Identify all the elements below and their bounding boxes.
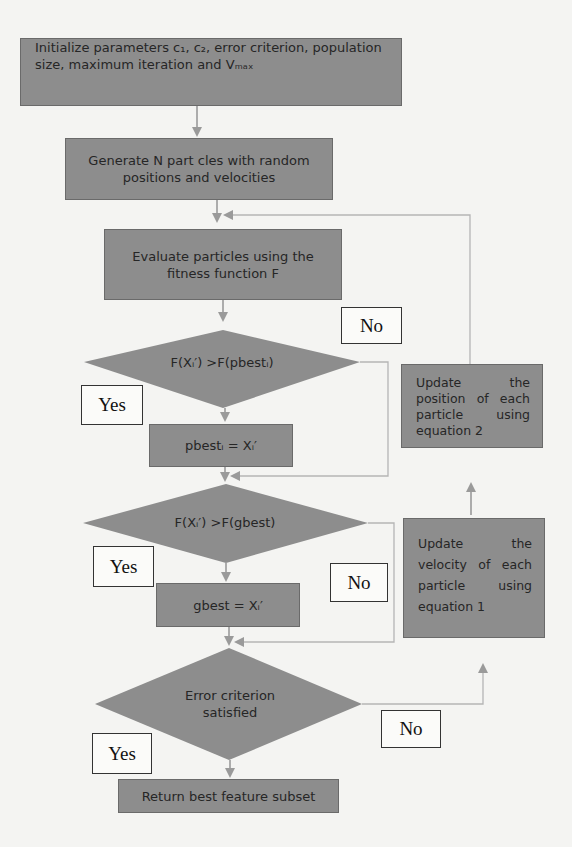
node-return-text: Return best feature subset — [142, 788, 316, 805]
label-no-pbest: No — [341, 307, 402, 344]
node-return-best-subset: Return best feature subset — [118, 779, 339, 813]
label-yes-pbest: Yes — [81, 385, 143, 425]
decision-error-text: Error criterion satisfied — [185, 687, 275, 721]
node-generate-line1: Generate N part cles with random — [88, 152, 309, 169]
node-assign-pbest: pbestᵢ = Xᵢ′ — [149, 424, 293, 467]
node-initialize-line1: Initialize parameters c₁, c₂, error crit… — [35, 39, 382, 56]
node-assign-gbest: gbest = Xᵢ′ — [156, 583, 300, 627]
node-generate-line2: positions and velocities — [123, 169, 275, 186]
label-no-error: No — [381, 710, 441, 748]
label-yes-error: Yes — [92, 733, 152, 774]
decision-error-line2: satisfied — [185, 704, 275, 721]
node-generate-particles: Generate N part cles with random positio… — [65, 138, 333, 200]
decision-pbest-text: F(Xᵢ′) >F(pbestᵢ) — [170, 354, 273, 371]
node-evaluate-line1: Evaluate particles using the — [132, 248, 313, 265]
label-yes-gbest: Yes — [93, 546, 154, 587]
label-no-gbest: No — [330, 563, 388, 602]
node-initialize-parameters: Initialize parameters c₁, c₂, error crit… — [20, 38, 402, 106]
node-update-velocity-text: Update the velocity of each particle usi… — [418, 536, 532, 614]
node-update-velocity: Update the velocity of each particle usi… — [403, 518, 545, 638]
node-assign-pbest-text: pbestᵢ = Xᵢ′ — [185, 437, 257, 454]
node-update-position: Update the position of each particle usi… — [401, 364, 543, 448]
node-initialize-line2: size, maximum iteration and Vₘₐₓ — [35, 56, 254, 73]
decision-gbest-text: F(Xᵢ′) >F(gbest) — [175, 514, 276, 531]
node-update-position-text: Update the position of each particle usi… — [416, 375, 530, 438]
node-evaluate-line2: fitness function F — [167, 265, 279, 282]
decision-error-line1: Error criterion — [185, 687, 275, 704]
node-evaluate-particles: Evaluate particles using the fitness fun… — [104, 229, 342, 300]
node-assign-gbest-text: gbest = Xᵢ′ — [193, 597, 263, 614]
